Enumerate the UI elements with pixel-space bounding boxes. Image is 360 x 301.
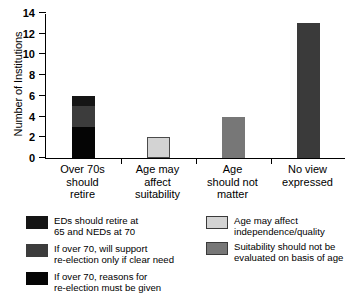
y-axis-tick: 2 xyxy=(39,136,46,137)
y-axis-tick: 14 xyxy=(39,12,46,13)
bars-group xyxy=(46,14,345,158)
chart-legend: EDs should retire at 65 and NEDs at 70If… xyxy=(0,215,360,301)
legend-swatch xyxy=(26,216,48,229)
y-axis-tick-label: 2 xyxy=(29,131,35,143)
y-axis-tick-label: 0 xyxy=(29,152,35,164)
bar xyxy=(222,117,245,158)
plot-area: 02468101214 xyxy=(45,14,345,159)
y-axis-tick-label: 14 xyxy=(23,7,35,19)
legend-swatch xyxy=(206,242,228,255)
y-axis-tick-label: 6 xyxy=(29,90,35,102)
legend-item: Suitability should not be evaluated on b… xyxy=(206,241,360,264)
legend-item: If over 70, will support re-election onl… xyxy=(26,243,201,266)
legend-label: If over 70, will support re-election onl… xyxy=(54,243,174,266)
legend-item: If over 70, reasons for re-election must… xyxy=(26,271,201,294)
bar xyxy=(72,96,95,158)
y-axis-tick: 10 xyxy=(39,53,46,54)
legend-item: EDs should retire at 65 and NEDs at 70 xyxy=(26,215,201,238)
legend-label: Age may affect independence/quality xyxy=(234,215,325,238)
legend-item: Age may affect independence/quality xyxy=(206,215,360,238)
y-axis-tick-label: 4 xyxy=(29,111,35,123)
legend-label: Suitability should not be evaluated on b… xyxy=(234,241,343,264)
bar xyxy=(297,23,320,158)
legend-swatch xyxy=(26,244,48,257)
y-axis-tick: 0 xyxy=(39,157,46,158)
x-axis-category-label: Over 70s should retire xyxy=(45,163,120,201)
x-axis-category-label: Age should not matter xyxy=(195,163,270,201)
bar-segment xyxy=(72,106,95,127)
legend-column-right: Age may affect independence/qualitySuita… xyxy=(206,215,360,267)
y-axis-tick: 12 xyxy=(39,33,46,34)
y-axis-tick-label: 10 xyxy=(23,48,35,60)
x-axis-category-labels: Over 70s should retireAge may affect sui… xyxy=(45,163,345,211)
bar-segment xyxy=(72,127,95,158)
x-axis-category-label: No view expressed xyxy=(270,163,345,188)
y-axis-tick-label: 8 xyxy=(29,69,35,81)
y-axis-tick: 4 xyxy=(39,116,46,117)
legend-label: EDs should retire at 65 and NEDs at 70 xyxy=(54,215,138,238)
x-axis-category-label: Age may affect suitability xyxy=(120,163,195,201)
legend-swatch xyxy=(26,272,48,285)
legend-label: If over 70, reasons for re-election must… xyxy=(54,271,161,294)
y-axis-tick-label: 12 xyxy=(23,28,35,40)
y-axis-tick: 8 xyxy=(39,74,46,75)
y-axis-tick: 6 xyxy=(39,95,46,96)
bar-segment xyxy=(72,96,95,106)
legend-swatch xyxy=(206,216,228,229)
bar xyxy=(147,137,170,158)
bar-segment xyxy=(297,23,320,158)
bar-segment xyxy=(147,137,170,158)
legend-column-left: EDs should retire at 65 and NEDs at 70If… xyxy=(26,215,201,298)
bar-segment xyxy=(222,117,245,158)
bar-chart: Number of Institutions 02468101214 Over … xyxy=(0,0,360,215)
